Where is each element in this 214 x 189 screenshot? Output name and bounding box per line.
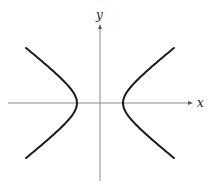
axes: x y: [8, 8, 204, 181]
hyperbola-diagram: x y: [0, 0, 214, 189]
y-axis-arrowhead-icon: [98, 24, 102, 29]
x-axis-label: x: [197, 96, 204, 110]
x-axis-arrowhead-icon: [188, 101, 193, 105]
y-axis-label: y: [95, 8, 103, 22]
